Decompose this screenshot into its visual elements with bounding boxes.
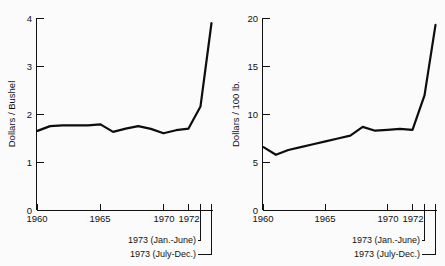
y-tick-label-2: 2	[27, 109, 32, 120]
y-axis-title: Dollars / 100 lb.	[230, 81, 241, 147]
y-tick-label-5: 5	[253, 157, 258, 168]
chart-panel-left: 4 3 2 1 0 Dollars / Bushel 1960 1965 197…	[0, 0, 222, 266]
x-tick-label-1972: 1972	[402, 213, 423, 224]
x-tick-label-1960: 1960	[26, 213, 47, 224]
y-axis-left: 4 3 2 1 0 Dollars / Bushel	[6, 13, 44, 216]
annotation-label-jan-june: 1973 (Jan.-June)	[352, 235, 420, 245]
figure-container: 4 3 2 1 0 Dollars / Bushel 1960 1965 197…	[0, 0, 445, 266]
y-axis-right: 20 15 10 5 0 Dollars / 100 lb.	[230, 13, 270, 216]
chart-panel-right: 20 15 10 5 0 Dollars / 100 lb. 1960 1965…	[222, 0, 444, 266]
annotation-label-july-dec: 1973 (July-Dec.)	[130, 249, 196, 259]
data-line-wheat	[38, 23, 212, 133]
data-line-soybean	[264, 25, 436, 155]
x-tick-label-1970: 1970	[153, 213, 174, 224]
y-axis-title: Dollars / Bushel	[6, 81, 17, 148]
x-tick-label-1972: 1972	[178, 213, 199, 224]
annotation-label-july-dec: 1973 (July-Dec.)	[354, 249, 420, 259]
y-tick-label-1: 1	[27, 157, 32, 168]
y-tick-label-15: 15	[247, 61, 258, 72]
y-tick-label-3: 3	[27, 61, 32, 72]
x-tick-label-1960: 1960	[252, 213, 273, 224]
x-axis-right: 1960 1965 1970 1972	[252, 204, 437, 225]
chart-svg-right: 20 15 10 5 0 Dollars / 100 lb. 1960 1965…	[222, 0, 444, 266]
x-tick-label-1970: 1970	[377, 213, 398, 224]
y-tick-label-20: 20	[247, 13, 258, 24]
y-tick-label-10: 10	[247, 109, 258, 120]
annotation-label-jan-june: 1973 (Jan.-June)	[128, 235, 196, 245]
y-tick-label-4: 4	[27, 13, 32, 24]
chart-svg-left: 4 3 2 1 0 Dollars / Bushel 1960 1965 197…	[0, 0, 222, 266]
x-tick-label-1965: 1965	[314, 213, 335, 224]
x-tick-label-1965: 1965	[89, 213, 110, 224]
x-axis-left: 1960 1965 1970 1972	[26, 204, 213, 225]
